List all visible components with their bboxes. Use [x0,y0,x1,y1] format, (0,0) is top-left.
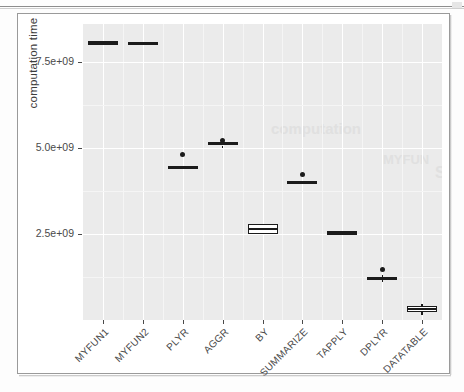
boxplot-outlier-point [380,267,385,272]
gridline-vertical-minor [203,24,204,320]
boxplot-median-line [168,167,198,170]
gridline-vertical-major [103,24,104,320]
x-axis-tick-mark [422,320,423,324]
scan-bleed-text: computation [271,120,361,137]
scan-corner-artifact [452,2,462,8]
scanned-page: computation time 2.5e+095.0e+097.5e+09 c… [0,0,464,392]
boxplot-median-line [88,42,118,45]
gridline-vertical-minor [322,24,323,320]
gridline-vertical-minor [402,24,403,320]
gridline-vertical-major [143,24,144,320]
gridline-horizontal-major [83,234,442,235]
y-axis-tick-mark [78,234,82,235]
page-shadow-right [450,15,452,375]
plot-panel: computationMYFUNSH [83,24,442,320]
gridline-horizontal-major [83,62,442,63]
x-axis-tick-mark [223,320,224,324]
gridline-vertical-major [342,24,343,320]
gridline-vertical-minor [243,24,244,320]
y-axis: 2.5e+095.0e+097.5e+09 [17,13,83,309]
y-axis-tick-mark [78,148,82,149]
y-axis-tick-label: 5.0e+09 [36,141,74,153]
x-axis-tick-mark [183,320,184,324]
y-axis-tick-label: 2.5e+09 [36,227,74,239]
gridline-vertical-minor [282,24,283,320]
gridline-vertical-minor [123,24,124,320]
boxplot-outlier-point [180,152,185,157]
gridline-vertical-major [223,24,224,320]
gridline-vertical-minor [362,24,363,320]
gridline-vertical-major [183,24,184,320]
x-axis-tick-mark [342,320,343,324]
gridline-vertical-minor [163,24,164,320]
gridline-horizontal-major [83,148,442,149]
boxplot-median-line [367,278,397,281]
boxplot-figure: computation time 2.5e+095.0e+097.5e+09 c… [17,13,450,374]
x-axis-tick-mark [143,320,144,324]
gridline-vertical-major [422,24,423,320]
x-axis-tick-mark [103,320,104,324]
boxplot-outlier-point [300,172,305,177]
boxplot-median-line [287,181,317,184]
y-axis-tick-label: 7.5e+09 [36,55,74,67]
boxplot-median-line [248,228,278,230]
scan-bleed-text: SH [435,164,442,182]
x-axis-tick-mark [382,320,383,324]
x-axis-tick-mark [263,320,264,324]
boxplot-median-line [327,232,357,235]
gridline-vertical-major [263,24,264,320]
boxplot-median-line [208,143,238,146]
scan-top-rule-shadow [0,8,464,9]
x-axis-tick-mark [302,320,303,324]
scan-top-rule [0,6,464,7]
gridline-horizontal-minor [83,105,442,106]
boxplot-median-line [407,308,437,310]
y-axis-tick-mark [78,62,82,63]
whisker-lower [382,280,383,282]
gridline-horizontal-minor [83,191,442,192]
boxplot-median-line [128,43,158,46]
whisker-lower [222,146,223,148]
whisker-lower [421,312,422,315]
boxplot-outlier-point [220,138,225,143]
